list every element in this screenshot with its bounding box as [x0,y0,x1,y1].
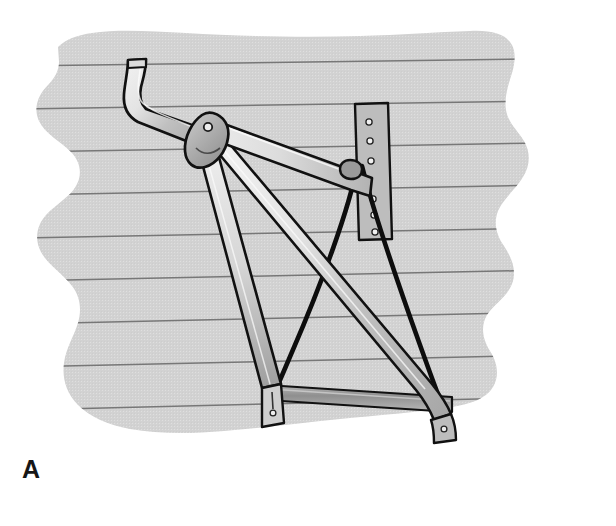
wall-panel [0,0,616,526]
bracket-hole-6 [372,229,378,235]
wall-texture [0,0,616,526]
bracket-hole-3 [368,158,374,164]
figure-root: A [0,0,616,526]
upper-arm-hook-tip [128,59,146,68]
pivot-rivet [204,123,212,131]
left-foot-hole [270,410,276,416]
siding-line [20,438,600,453]
bracket-hole-2 [367,138,373,144]
rafter-knuckle [340,160,362,179]
right-foot-hole [441,426,447,432]
bracket-hole-1 [366,119,372,125]
awning-arm-illustration [0,0,616,526]
left-foot-slot [272,392,273,409]
panel-label: A [22,457,40,482]
